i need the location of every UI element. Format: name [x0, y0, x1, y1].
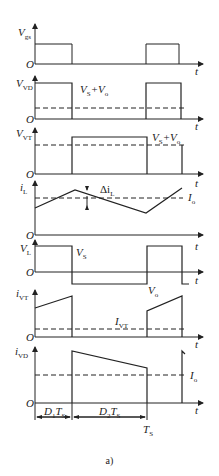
svg-text:t: t [195, 404, 199, 416]
svg-text:TS: TS [143, 423, 153, 438]
svg-text:VS+Vo: VS+Vo [80, 83, 109, 98]
panel-vvd [35, 76, 203, 119]
svg-text:VS+Vo: VS+Vo [152, 131, 181, 146]
svg-text:O: O [26, 168, 34, 180]
panel-vvt [35, 128, 203, 174]
labels: Vgs O t VVD VS+Vo O t VVT VS+Vo O t iL Δ… [15, 26, 199, 438]
svg-text:O: O [26, 266, 34, 278]
svg-text:IVT: IVT [114, 315, 129, 330]
svg-text:iVD: iVD [15, 345, 28, 360]
svg-text:D2TS: D2TS [98, 405, 121, 420]
svg-text:O: O [26, 113, 34, 125]
panel-vl [35, 240, 203, 284]
svg-text:t: t [195, 240, 199, 252]
svg-text:iVT: iVT [16, 287, 29, 302]
svg-text:VVT: VVT [16, 127, 33, 142]
svg-text:t: t [195, 274, 199, 286]
svg-text:Io: Io [189, 369, 198, 384]
svg-text:t: t [195, 120, 199, 132]
svg-text:t: t [195, 177, 199, 189]
svg-text:D1TS: D1TS [43, 405, 66, 420]
svg-text:t: t [195, 338, 199, 350]
panel-ivd [35, 347, 203, 403]
svg-text:O: O [26, 397, 34, 409]
panel-vgs [35, 24, 203, 64]
svg-text:Vgs: Vgs [18, 26, 31, 41]
svg-text:VVD: VVD [16, 77, 33, 92]
figure-caption: a) [0, 455, 219, 466]
svg-text:O: O [26, 58, 34, 70]
svg-text:iL: iL [20, 181, 27, 196]
svg-text:VL: VL [20, 242, 31, 257]
svg-text:Io: Io [187, 191, 196, 206]
svg-text:t: t [195, 65, 199, 77]
panel-il [35, 181, 203, 235]
svg-text:O: O [26, 331, 34, 343]
svg-text:VS: VS [76, 246, 87, 261]
waveform-diagram: Vgs O t VVD VS+Vo O t VVT VS+Vo O t iL Δ… [0, 0, 219, 476]
svg-text:ΔiL: ΔiL [100, 183, 114, 198]
svg-text:Vo: Vo [148, 284, 159, 299]
svg-text:O: O [26, 229, 34, 241]
